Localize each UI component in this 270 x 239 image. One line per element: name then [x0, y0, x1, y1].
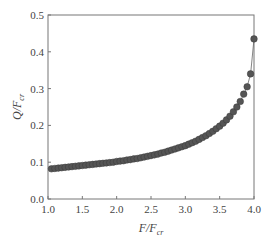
x-tick-label: 3.5 [213, 203, 227, 215]
y-axis-label: Q/Fcr [10, 93, 26, 120]
y-tick-label: 0.3 [30, 83, 44, 95]
chart: 1.01.52.02.53.03.54.00.00.10.20.30.40.5 … [0, 0, 270, 239]
x-tick-label: 2.5 [144, 203, 158, 215]
y-tick-label: 0.5 [30, 9, 44, 21]
x-axis-label: F/Fcr [138, 221, 165, 237]
plot-area [48, 15, 254, 199]
y-tick-label: 0.1 [30, 156, 44, 168]
data-point [240, 91, 247, 98]
data-point [237, 98, 244, 105]
x-tick-label: 1.5 [75, 203, 89, 215]
data-point [244, 83, 251, 90]
y-tick-label: 0.4 [30, 46, 44, 58]
y-tick-label: 0.0 [30, 193, 44, 205]
data-point [247, 71, 254, 78]
y-tick-label: 0.2 [30, 119, 44, 131]
data-point [251, 36, 258, 43]
x-tick-label: 2.0 [110, 203, 124, 215]
x-tick-label: 4.0 [247, 203, 261, 215]
x-tick-label: 3.0 [178, 203, 192, 215]
